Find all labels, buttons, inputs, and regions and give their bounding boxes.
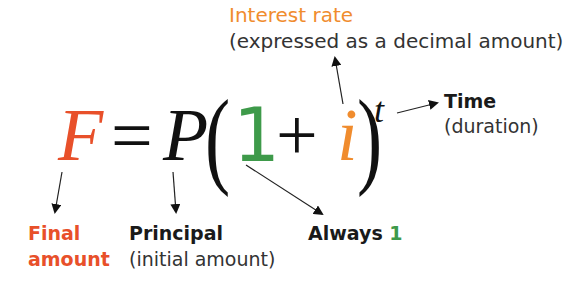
interest-rate-title: Interest rate xyxy=(229,5,353,25)
formula-time-t: t xyxy=(374,92,384,128)
time-title: Time xyxy=(444,92,496,111)
arrow-final-amount xyxy=(55,172,62,212)
arrow-time xyxy=(397,103,437,113)
always-one-prefix: Always xyxy=(308,222,389,244)
formula-principal-P: P xyxy=(163,98,208,172)
formula-open-paren: ( xyxy=(205,84,230,192)
formula-plus: + xyxy=(276,98,318,172)
always-one-label: Always 1 xyxy=(308,224,403,243)
interest-rate-subtitle: (expressed as a decimal amount) xyxy=(229,31,563,51)
principal-title: Principal xyxy=(129,224,223,243)
final-amount-line2: amount xyxy=(28,250,110,269)
always-one-value: 1 xyxy=(389,222,402,244)
arrow-principal xyxy=(173,172,176,212)
formula-equals: = xyxy=(111,98,153,172)
principal-subtitle: (initial amount) xyxy=(129,250,275,269)
formula-final-amount-F: F xyxy=(58,98,103,172)
formula-one: 1 xyxy=(233,98,280,172)
formula-interest-i: i xyxy=(337,98,358,172)
time-subtitle: (duration) xyxy=(444,117,539,136)
final-amount-line1: Final xyxy=(28,224,80,243)
